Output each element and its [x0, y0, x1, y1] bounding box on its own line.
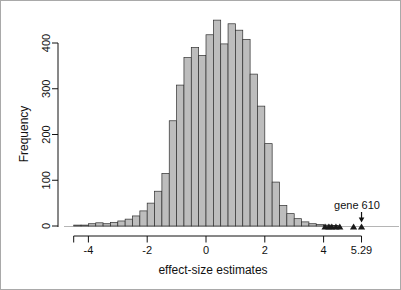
histogram-bar [96, 223, 103, 226]
x-tick-label: -2 [142, 244, 152, 256]
histogram-bar [162, 173, 169, 226]
histogram-bar [257, 106, 264, 226]
histogram-bar [316, 225, 323, 226]
histogram-bar [88, 224, 95, 226]
y-axis-title: Frequency [17, 106, 31, 163]
histogram-bar [235, 30, 242, 226]
histogram-bar [213, 20, 220, 226]
x-tick-label: 4 [321, 244, 327, 256]
histogram-bar [155, 191, 162, 226]
histogram-bar [191, 48, 198, 226]
histogram-bar [133, 216, 140, 226]
x-tick-label: 2 [262, 244, 268, 256]
histogram-bar [221, 44, 228, 226]
histogram-bar [265, 144, 272, 226]
gene-annotation-label: gene 610 [334, 199, 380, 211]
x-tick-label: 0 [203, 244, 209, 256]
histogram-bar [184, 58, 191, 226]
histogram-bar [302, 222, 309, 226]
chart-canvas: 0100200300400-4-20245.29 Frequency effec… [1, 1, 401, 290]
y-tick-label: 100 [40, 171, 52, 189]
histogram-bar [309, 224, 316, 226]
y-tick-label: 300 [40, 80, 52, 98]
x-tick-label: 5.29 [351, 244, 372, 256]
x-tick-label: -4 [84, 244, 94, 256]
histogram-bar [110, 222, 117, 226]
histogram-bars-layer [74, 20, 339, 226]
y-tick-label: 0 [40, 223, 52, 229]
histogram-bar [103, 224, 110, 226]
histogram-bar [169, 121, 176, 226]
histogram-figure: 0100200300400-4-20245.29 Frequency effec… [0, 0, 401, 290]
histogram-bar [81, 225, 88, 226]
y-tick-label: 200 [40, 125, 52, 143]
y-tick-label: 400 [40, 34, 52, 52]
histogram-bar [125, 219, 132, 226]
histogram-bar [177, 85, 184, 226]
histogram-bar [287, 214, 294, 226]
histogram-bar [140, 211, 147, 226]
histogram-bar [206, 35, 213, 226]
histogram-bar [280, 205, 287, 226]
histogram-bar [272, 182, 279, 226]
annotation-arrow-head [359, 218, 365, 223]
histogram-bar [250, 74, 257, 226]
histogram-bar [243, 39, 250, 226]
histogram-bar [147, 203, 154, 226]
histogram-bar [294, 219, 301, 226]
annotation-layer [359, 212, 365, 223]
x-axis-title: effect-size estimates [158, 263, 267, 277]
histogram-bar [228, 24, 235, 226]
histogram-bar [74, 225, 81, 226]
histogram-bar [199, 55, 206, 226]
histogram-bar [118, 221, 125, 226]
